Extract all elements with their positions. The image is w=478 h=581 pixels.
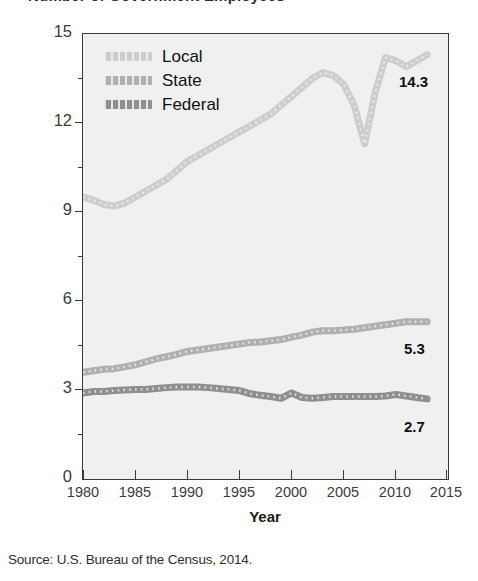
x-tick-label-1985: 1985 [112, 484, 158, 500]
x-tick-label-2010: 2010 [372, 484, 418, 500]
x-tick-mark-2005 [343, 470, 344, 479]
legend: Local State Federal [104, 44, 220, 116]
legend-swatch-local [104, 52, 152, 61]
x-tick-label-2005: 2005 [320, 484, 366, 500]
x-tick-mark-1980 [83, 470, 84, 479]
legend-label-local: Local [162, 48, 203, 65]
legend-swatch-state [104, 76, 152, 85]
x-tick-mark-2010 [395, 470, 396, 479]
y-tick-label-15: 15 [38, 22, 72, 41]
legend-swatch-federal [104, 100, 152, 109]
end-label-federal: 2.7 [404, 418, 425, 435]
y-tick-label-3: 3 [38, 378, 72, 397]
chart-figure: Number of Employees (in millions) 15 12 … [0, 0, 478, 581]
end-label-state: 5.3 [404, 340, 425, 357]
x-tick-mark-1985 [135, 470, 136, 479]
legend-label-federal: Federal [162, 96, 220, 113]
legend-item-local[interactable]: Local [104, 44, 220, 68]
legend-label-state: State [162, 72, 202, 89]
x-axis-title: Year [82, 508, 448, 525]
x-tick-label-1980: 1980 [60, 484, 106, 500]
end-label-local: 14.3 [399, 73, 428, 90]
x-tick-label-2000: 2000 [268, 484, 314, 500]
x-tick-label-1990: 1990 [164, 484, 210, 500]
x-tick-mark-2015 [446, 470, 447, 479]
y-tick-label-6: 6 [38, 289, 72, 308]
x-tick-mark-1990 [187, 470, 188, 479]
source-note: Source: U.S. Bureau of the Census, 2014. [8, 552, 252, 567]
y-tick-label-12: 12 [38, 111, 72, 130]
legend-item-state[interactable]: State [104, 68, 220, 92]
y-tick-label-9: 9 [38, 200, 72, 219]
legend-item-federal[interactable]: Federal [104, 92, 220, 116]
x-tick-label-1995: 1995 [216, 484, 262, 500]
x-tick-label-2015: 2015 [423, 484, 469, 500]
x-tick-mark-2000 [291, 470, 292, 479]
x-tick-mark-1995 [239, 470, 240, 479]
